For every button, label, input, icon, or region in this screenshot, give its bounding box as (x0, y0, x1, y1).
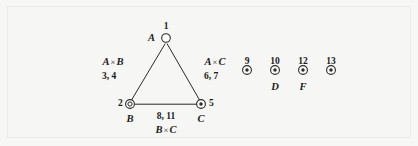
node-letter-c: C (197, 114, 204, 125)
multiplication-sign-icon: × (212, 57, 219, 67)
edge-ab-right-operand: B (116, 56, 123, 67)
multiplication-sign-icon: × (163, 125, 170, 135)
edge-bc-left-operand: B (156, 124, 163, 135)
node-number-13: 13 (326, 57, 336, 67)
node-number-12: 12 (298, 57, 308, 67)
node-letter-f: F (299, 82, 306, 93)
multiplication-sign-icon: × (110, 57, 117, 67)
edge-label-a-c-numbers: 6, 7 (204, 72, 218, 82)
triangle-edges (131, 44, 200, 105)
edge-label-a-b-product: A×B (103, 57, 124, 68)
node-letter-d: D (271, 82, 279, 93)
edge-bc-right-operand: C (169, 124, 176, 135)
edge-label-b-c-product: B×C (156, 125, 177, 136)
node-marker-9[interactable] (243, 66, 252, 75)
node-marker-13[interactable] (327, 66, 336, 75)
node-number-9: 9 (245, 57, 250, 67)
node-marker-12[interactable] (299, 66, 308, 75)
node-marker-5-c[interactable] (197, 100, 206, 109)
edge-label-a-b-numbers: 3, 4 (102, 72, 116, 82)
node-letter-b: B (126, 114, 133, 125)
figure-root: 1 A 2 B 5 C A×B 3, 4 A×C 6, 7 8, 11 B×C … (0, 0, 418, 146)
node-number-10: 10 (270, 57, 280, 67)
node-number-2: 2 (118, 99, 123, 109)
edge-label-a-c-product: A×C (205, 57, 226, 68)
edge-ac-left-operand: A (205, 56, 212, 67)
edge-ab-left-operand: A (103, 56, 110, 67)
node-number-5: 5 (209, 99, 214, 109)
edge-a-c (167, 44, 200, 101)
node-marker-10[interactable] (271, 66, 280, 75)
node-letter-a: A (148, 33, 155, 44)
edge-a-b (131, 44, 165, 101)
node-number-1: 1 (164, 22, 169, 32)
edge-label-b-c-numbers: 8, 11 (157, 112, 175, 122)
node-marker-1-a[interactable] (162, 34, 171, 43)
edge-ac-right-operand: C (218, 56, 225, 67)
node-marker-2-b[interactable] (126, 100, 135, 109)
